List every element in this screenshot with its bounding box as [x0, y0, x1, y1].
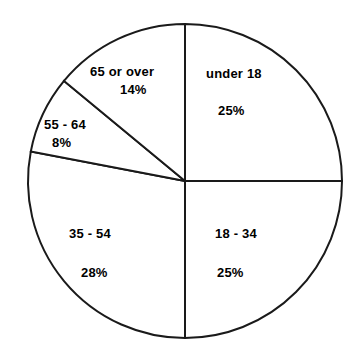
slice-label-65-or-over: 65 or over 14%: [90, 64, 154, 97]
slice-label-name-under-18: under 18: [206, 66, 262, 81]
pie-slice-18-34: [185, 181, 342, 338]
pie-chart-graphic: [0, 0, 359, 355]
pie-slice-group: [28, 24, 342, 338]
slice-label-under-18: under 18 25%: [206, 66, 262, 118]
slice-label-name-55-64: 55 - 64: [44, 117, 86, 132]
slice-label-55-64: 55 - 64 8%: [44, 117, 86, 150]
slice-label-name-35-54: 35 - 54: [69, 226, 111, 241]
slice-label-value-35-54: 28%: [81, 265, 111, 280]
slice-label-18-34: 18 - 34 25%: [215, 226, 257, 280]
slice-label-name-65-or-over: 65 or over: [90, 64, 154, 79]
pie-chart: under 18 25% 18 - 34 25% 35 - 54 28% 55 …: [0, 0, 359, 355]
slice-label-value-18-34: 25%: [217, 265, 257, 280]
slice-label-35-54: 35 - 54 28%: [69, 226, 111, 280]
slice-label-value-65-or-over: 14%: [120, 82, 154, 97]
slice-label-value-under-18: 25%: [218, 103, 262, 118]
slice-label-name-18-34: 18 - 34: [215, 226, 257, 241]
slice-label-value-55-64: 8%: [52, 135, 86, 150]
